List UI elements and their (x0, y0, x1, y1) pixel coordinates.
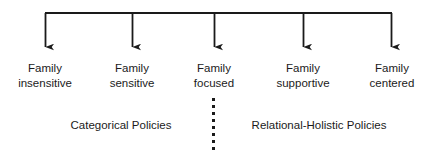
node-label-line1: Family (18, 61, 72, 76)
node-label-line2: insensitive (18, 76, 72, 91)
node-label-family-supportive: Family supportive (276, 61, 329, 91)
node-label-family-centered: Family centered (370, 61, 415, 91)
node-label-family-sensitive: Family sensitive (110, 61, 155, 91)
node-label-family-focused: Family focused (194, 61, 234, 91)
node-label-line1: Family (370, 61, 415, 76)
node-label-line2: focused (194, 76, 234, 91)
diagram-canvas: Family insensitive Family sensitive Fami… (0, 0, 434, 158)
group-label-categorical-policies: Categorical Policies (71, 118, 172, 132)
node-label-line2: sensitive (110, 76, 155, 91)
group-label-relational-holistic-policies: Relational-Holistic Policies (252, 118, 387, 132)
node-label-line1: Family (194, 61, 234, 76)
node-label-line1: Family (110, 61, 155, 76)
node-label-line2: centered (370, 76, 415, 91)
node-label-line2: supportive (276, 76, 329, 91)
node-label-family-insensitive: Family insensitive (18, 61, 72, 91)
node-label-line1: Family (276, 61, 329, 76)
